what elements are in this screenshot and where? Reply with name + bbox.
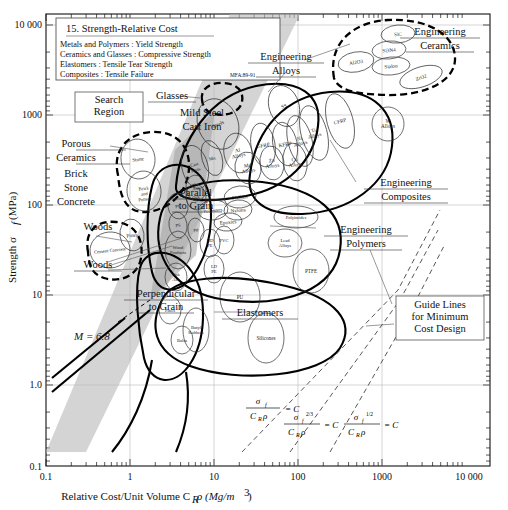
svg-text:Alloys: Alloys bbox=[272, 65, 300, 76]
x-tick-10: 10 bbox=[209, 471, 219, 482]
y-tick-1000: 1000 bbox=[22, 109, 42, 120]
bubble-label: Wood bbox=[173, 245, 185, 250]
bubble-label: Oak bbox=[172, 272, 180, 277]
bubble-label: Si3N4 bbox=[382, 46, 396, 53]
svg-text:ρ: ρ bbox=[300, 427, 306, 437]
svg-text:Elastomers: Elastomers bbox=[237, 307, 284, 318]
guide-box-line-2: Cost Design bbox=[414, 323, 466, 334]
svg-text:ρ (Mg/m: ρ (Mg/m bbox=[196, 490, 234, 503]
y-tick-10000: 10 000 bbox=[15, 19, 43, 30]
bubble-label: Alloys bbox=[279, 243, 291, 248]
bubble-label: Products bbox=[170, 250, 186, 255]
bubble-label: PE bbox=[207, 243, 213, 248]
svg-text:Porous: Porous bbox=[61, 138, 90, 149]
guide-lines-box[interactable]: Guide Lines for Minimum Cost Design bbox=[396, 296, 484, 340]
svg-text:Brick: Brick bbox=[64, 168, 88, 179]
svg-text:σ: σ bbox=[354, 412, 359, 422]
svg-text:1/2: 1/2 bbox=[366, 411, 373, 417]
svg-text:R: R bbox=[355, 432, 360, 438]
subtitle-line-0: Metals and Polymers : Yield Strength bbox=[60, 40, 183, 49]
svg-text:Perpendicular: Perpendicular bbox=[137, 288, 196, 299]
svg-text:ρ: ρ bbox=[360, 427, 366, 437]
subtitle-line-3: Composites : Tensile Failure bbox=[60, 70, 154, 79]
bubble-label: PVC bbox=[220, 238, 229, 243]
svg-text:R: R bbox=[295, 432, 300, 438]
chart-credit: MFA:89-91 bbox=[230, 72, 256, 78]
search-region-box[interactable]: Search Region bbox=[75, 92, 143, 122]
ashby-strength-relative-cost-chart: M = 6.8 SiCSi3N4SialonAl2O3ZrO2SSSteelsC… bbox=[0, 0, 508, 510]
bubble-label: HD bbox=[207, 238, 214, 243]
svg-text:to Grain: to Grain bbox=[179, 200, 214, 211]
svg-text:σ: σ bbox=[294, 412, 299, 422]
svg-text:Parallel: Parallel bbox=[180, 187, 212, 198]
svg-text:ρ: ρ bbox=[262, 411, 268, 421]
label-woods-upper: Woods bbox=[84, 221, 113, 232]
svg-text:Cast Iron: Cast Iron bbox=[183, 121, 223, 132]
bubble-label: SiC bbox=[394, 31, 403, 38]
bubble-label: PE bbox=[211, 269, 217, 274]
y-tick-10: 10 bbox=[32, 289, 42, 300]
bubble-label: Sialon bbox=[384, 62, 398, 69]
svg-text:Relative Cost/Unit Volume C: Relative Cost/Unit Volume C bbox=[61, 490, 190, 502]
bubble-label: PTFE bbox=[305, 268, 317, 274]
search-region-line-1: Region bbox=[94, 106, 125, 117]
subtitle-line-2: Elastomers : Tensile Tear Strength bbox=[60, 60, 172, 69]
svg-text:Engineering: Engineering bbox=[260, 51, 312, 62]
svg-text:Glasses: Glasses bbox=[156, 90, 188, 101]
svg-text:Ceramics: Ceramics bbox=[420, 40, 460, 51]
x-tick-10000: 10 000 bbox=[455, 471, 483, 482]
svg-text:C: C bbox=[250, 411, 257, 421]
svg-text:= C: = C bbox=[324, 420, 339, 430]
bubble-label: Polyimides bbox=[286, 215, 307, 220]
svg-text:C: C bbox=[348, 427, 355, 437]
y-tick-100: 100 bbox=[27, 199, 42, 210]
bubble-label: Rubbers bbox=[188, 330, 204, 335]
bubble-label: Silicones bbox=[256, 335, 275, 341]
svg-text:2/3: 2/3 bbox=[306, 411, 313, 417]
svg-text:R: R bbox=[257, 416, 262, 422]
bubble-label: LD bbox=[211, 264, 218, 269]
svg-text:Mild Steel: Mild Steel bbox=[180, 107, 224, 118]
guide-box-line-0: Guide Lines bbox=[414, 299, 466, 310]
svg-text:to Grain: to Grain bbox=[149, 301, 184, 312]
svg-text:Engineering: Engineering bbox=[340, 224, 392, 235]
bubble-label: PU bbox=[237, 294, 244, 300]
svg-text:Ceramics: Ceramics bbox=[56, 152, 96, 163]
bubble-label: Balsa bbox=[177, 338, 187, 343]
title-block: 15. Strength-Relative Cost Metals and Po… bbox=[56, 18, 280, 80]
svg-text:Engineering: Engineering bbox=[414, 26, 466, 37]
y-tick-1: 1.0 bbox=[30, 379, 43, 390]
search-region-line-0: Search bbox=[95, 94, 124, 105]
subtitle-line-1: Ceramics and Glasses : Compressive Stren… bbox=[60, 50, 211, 59]
guide-box-line-1: for Minimum bbox=[412, 311, 469, 322]
bubble-label: Alloys bbox=[381, 123, 395, 129]
chart-canvas: M = 6.8 SiCSi3N4SialonAl2O3ZrO2SSSteelsC… bbox=[0, 0, 508, 510]
x-tick-1000: 1000 bbox=[372, 471, 392, 482]
x-tick-1: 1 bbox=[128, 471, 133, 482]
svg-text:Engineering: Engineering bbox=[380, 177, 432, 188]
svg-text:Stone: Stone bbox=[64, 182, 88, 193]
svg-text:Woods: Woods bbox=[84, 259, 113, 270]
material-index-label: M = 6.8 bbox=[73, 330, 110, 342]
svg-text:(MPa): (MPa) bbox=[6, 192, 19, 220]
svg-text:C: C bbox=[288, 427, 295, 437]
bubble-label: Butyl bbox=[191, 325, 202, 330]
x-tick-100: 100 bbox=[291, 471, 306, 482]
svg-text:Concrete: Concrete bbox=[57, 196, 95, 207]
svg-text:σ: σ bbox=[256, 396, 261, 406]
bubble-label: Ash bbox=[172, 277, 180, 282]
svg-text:Strength σ: Strength σ bbox=[6, 237, 18, 283]
bubble-label: Lead bbox=[280, 238, 290, 243]
chart-title: 15. Strength-Relative Cost bbox=[66, 23, 178, 34]
x-tick-0.1: 0.1 bbox=[40, 471, 53, 482]
svg-text:): ) bbox=[248, 490, 252, 503]
svg-text:Composites: Composites bbox=[381, 191, 431, 202]
svg-text:= C: = C bbox=[384, 420, 399, 430]
svg-text:Woods: Woods bbox=[84, 221, 113, 232]
svg-text:Polymers: Polymers bbox=[346, 238, 386, 249]
